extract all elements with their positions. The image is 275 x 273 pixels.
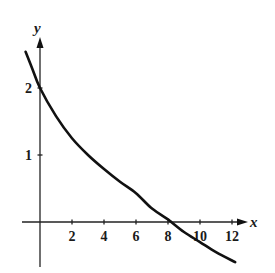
y-axis-label: y xyxy=(32,20,41,36)
x-tick-label: 12 xyxy=(225,229,239,244)
y-axis-arrow-icon xyxy=(37,37,44,48)
x-axis-arrow-icon xyxy=(237,219,248,226)
x-tick-label: 8 xyxy=(165,229,172,244)
x-tick-label: 2 xyxy=(69,229,76,244)
chart-root: x y 24681012 12 xyxy=(0,0,275,273)
chart-canvas: x y 24681012 12 xyxy=(0,0,275,273)
y-tick-label: 2 xyxy=(25,81,32,96)
y-tick-label: 1 xyxy=(25,148,32,163)
x-ticks: 24681012 xyxy=(69,220,240,245)
x-tick-label: 6 xyxy=(133,229,140,244)
x-tick-label: 4 xyxy=(101,229,108,244)
x-axis-label: x xyxy=(249,214,258,230)
